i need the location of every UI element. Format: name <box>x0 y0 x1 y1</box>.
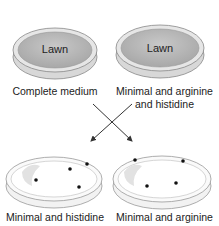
colony <box>181 159 185 163</box>
plate-label-minimal-arg-his-line2: and histidine <box>110 98 219 110</box>
colony <box>133 158 137 162</box>
colony <box>85 162 89 166</box>
colony <box>174 181 178 185</box>
lawn-label-minimal-arg-his: Lawn <box>140 42 180 54</box>
lawn-label-complete: Lawn <box>35 43 75 55</box>
colony <box>34 178 38 182</box>
plate-label-minimal-arginine: Minimal and arginine <box>110 211 219 223</box>
plate-minimal-histidine <box>6 157 102 208</box>
colony <box>77 185 81 189</box>
plate-label-complete-medium: Complete medium <box>0 85 110 97</box>
plate-minimal-arginine <box>113 156 211 209</box>
diagram-canvas <box>0 0 219 226</box>
colony <box>68 167 72 171</box>
plate-label-minimal-arg-his-line1: Minimal and arginine <box>110 85 219 97</box>
colony <box>145 184 149 188</box>
plate-label-minimal-histidine: Minimal and histidine <box>0 211 110 223</box>
